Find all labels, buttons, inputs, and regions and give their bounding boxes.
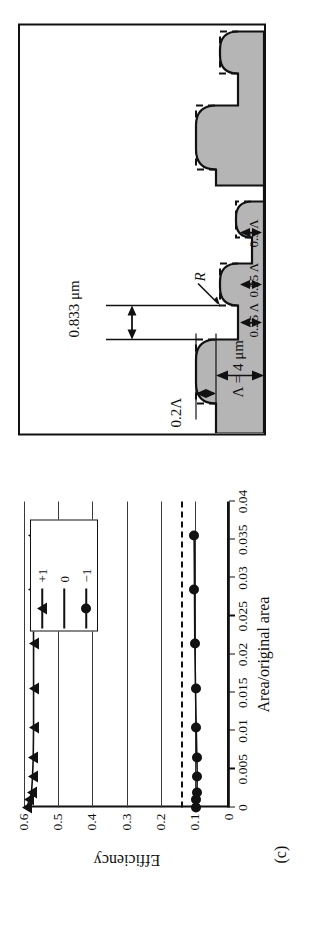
label-period: Λ = 4 μm: [230, 340, 247, 397]
chart-plot-area: 00.10.20.30.40.50.6 00.0050.010.0150.020…: [24, 501, 229, 807]
legend-label: +1: [36, 568, 49, 582]
figure-page: 00.10.20.30.40.50.6 00.0050.010.0150.020…: [0, 0, 334, 925]
legend-item: +1: [31, 520, 53, 630]
y-tick-label: 0.6: [17, 813, 31, 830]
y-tick-label: 0.2: [154, 813, 168, 830]
data-point-circle-icon: [189, 530, 199, 540]
x-tick-label: 0.005: [236, 754, 250, 784]
legend-marker-circle-icon: [75, 586, 97, 630]
x-tick-label: 0: [236, 804, 250, 811]
rotated-scan-stage: 00.10.20.30.40.50.6 00.0050.010.0150.020…: [0, 0, 334, 925]
x-tick-label: 0.02: [236, 642, 250, 666]
data-point-circle-icon: [192, 787, 202, 797]
chart-legend: +1 0 −1: [30, 519, 98, 631]
figure-upright-content: 00.10.20.30.40.50.6 00.0050.010.0150.020…: [0, 0, 334, 925]
x-tick-label: 0.025: [236, 601, 250, 631]
data-point-circle-icon: [192, 752, 202, 762]
grating-schematic-drawing: 0.833 μm 0.2Λ Λ = 4 μm R 0.3 Λ 0.25 Λ 0.…: [20, 25, 264, 433]
legend-marker-triangle-icon: [31, 586, 53, 630]
x-tick-label: 0.01: [236, 719, 250, 743]
legend-label: 0: [58, 576, 71, 583]
x-tick-label: 0.035: [236, 524, 250, 554]
x-axis-title: Area/original area: [255, 596, 273, 712]
y-tick-label: 0: [222, 813, 236, 820]
legend-marker-line-icon: [53, 586, 75, 630]
series-line: [194, 535, 197, 807]
efficiency-chart: 00.10.20.30.40.50.6 00.0050.010.0150.020…: [10, 467, 310, 867]
x-tick-label: 0.04: [236, 489, 250, 513]
label-step-width: 0.833 μm: [66, 280, 83, 337]
data-point-circle-icon: [189, 584, 199, 594]
label-segment-a: 0.3 Λ: [246, 219, 262, 247]
grating-schematic-panel: 0.833 μm 0.2Λ Λ = 4 μm R 0.3 Λ 0.25 Λ 0.…: [18, 23, 266, 435]
data-point-circle-icon: [191, 722, 201, 732]
panel-letter: (c): [272, 845, 290, 863]
label-radius: R: [192, 272, 209, 281]
data-point-triangle-icon: [29, 682, 39, 694]
label-segment-c: 0.25 Λ: [246, 302, 262, 337]
y-axis-title: Efficiency: [93, 850, 159, 868]
y-tick-label: 0.3: [120, 813, 134, 830]
legend-item: −1: [75, 520, 97, 630]
y-tick-label: 0.4: [86, 813, 100, 830]
data-point-triangle-icon: [28, 751, 38, 763]
label-segment-b: 0.25 Λ: [246, 262, 262, 297]
data-point-triangle-icon: [29, 721, 39, 733]
legend-label: −1: [80, 568, 93, 582]
data-point-triangle-icon: [27, 786, 37, 798]
legend-item: 0: [53, 520, 75, 630]
label-depth: 0.2Λ: [168, 397, 185, 427]
data-point-triangle-icon: [29, 637, 39, 649]
data-point-circle-icon: [190, 638, 200, 648]
data-point-triangle-icon: [28, 770, 38, 782]
data-point-circle-icon: [192, 771, 202, 781]
data-point-circle-icon: [191, 683, 201, 693]
y-tick-label: 0.1: [188, 813, 202, 830]
y-tick-label: 0.5: [51, 813, 65, 830]
x-tick-label: 0.015: [236, 677, 250, 707]
grating-profile-svg: [20, 25, 264, 433]
x-tick-label: 0.03: [236, 566, 250, 590]
